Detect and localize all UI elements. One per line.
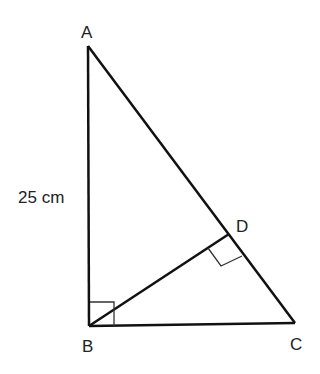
point-label-a: A [81, 23, 93, 42]
point-label-b: B [82, 337, 93, 356]
point-label-d: D [236, 217, 248, 236]
right-angle-marker-d [208, 248, 242, 266]
triangle-diagram: A B C D 25 cm [0, 0, 320, 374]
altitude-bd [89, 234, 229, 326]
side-ac [88, 46, 295, 323]
measurement-label-ab: 25 cm [18, 188, 64, 207]
side-bc [89, 323, 295, 326]
side-ab [88, 46, 89, 326]
point-label-c: C [290, 335, 302, 354]
